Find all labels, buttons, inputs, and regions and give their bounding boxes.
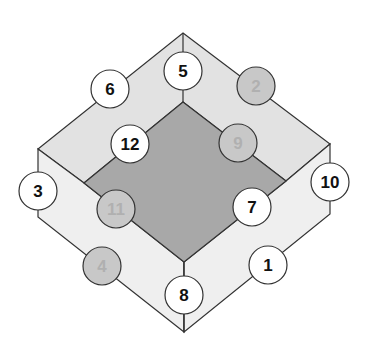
- node-label: 5: [178, 62, 187, 81]
- node-label: 2: [251, 77, 260, 96]
- node-12: 12: [111, 125, 149, 163]
- node-label: 8: [179, 286, 188, 305]
- node-label: 6: [105, 80, 114, 99]
- node-10: 10: [311, 163, 349, 201]
- node-label: 1: [263, 256, 272, 275]
- node-9: 9: [219, 124, 257, 162]
- node-4: 4: [83, 247, 121, 285]
- node-3: 3: [19, 172, 57, 210]
- node-6: 6: [91, 70, 129, 108]
- node-5: 5: [164, 52, 202, 90]
- node-label: 7: [247, 198, 256, 217]
- node-label: 4: [97, 257, 107, 276]
- node-7: 7: [233, 188, 271, 226]
- node-label: 9: [233, 134, 242, 153]
- node-label: 10: [321, 173, 340, 192]
- isometric-diagram: 123456789101112: [0, 0, 368, 352]
- node-1: 1: [249, 246, 287, 284]
- node-11: 11: [97, 190, 135, 228]
- node-2: 2: [237, 67, 275, 105]
- node-label: 3: [33, 182, 42, 201]
- node-label: 12: [121, 135, 140, 154]
- node-8: 8: [165, 276, 203, 314]
- node-label: 11: [107, 200, 125, 219]
